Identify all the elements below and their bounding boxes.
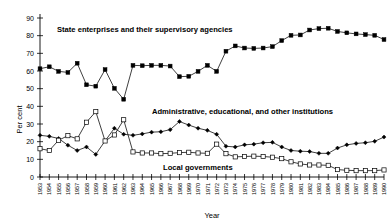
data-point xyxy=(326,163,330,167)
data-point xyxy=(159,152,163,156)
data-point xyxy=(243,46,247,50)
data-point xyxy=(280,157,284,161)
data-point xyxy=(280,145,284,149)
x-tick-label: 1976 xyxy=(251,183,257,195)
data-point xyxy=(168,64,172,68)
x-tick-label: 1982 xyxy=(307,183,313,195)
data-point xyxy=(84,120,88,124)
x-tick-label: 1990 xyxy=(381,183,387,195)
data-point xyxy=(150,130,154,134)
data-point xyxy=(345,31,349,35)
data-point xyxy=(233,44,237,48)
x-tick-label: 1958 xyxy=(84,183,90,195)
y-tick-label: 60 xyxy=(26,68,34,75)
data-point xyxy=(112,133,116,137)
x-tick-label: 1957 xyxy=(74,183,80,195)
data-point xyxy=(289,33,293,37)
x-tick-label: 1978 xyxy=(270,183,276,195)
data-point xyxy=(317,27,321,31)
x-tick-label: 1974 xyxy=(232,183,238,195)
x-tick-label: 1984 xyxy=(325,183,331,195)
data-point xyxy=(205,151,209,155)
data-point xyxy=(196,69,200,73)
data-point xyxy=(373,169,377,173)
x-tick-label: 1973 xyxy=(223,183,229,195)
data-point xyxy=(178,75,182,79)
data-point xyxy=(317,151,321,155)
data-point xyxy=(243,143,247,147)
x-tick-label: 1967 xyxy=(167,183,173,195)
x-tick-label: 1989 xyxy=(372,183,378,195)
data-point xyxy=(66,71,70,75)
x-tick-label: 1972 xyxy=(214,183,220,195)
data-point xyxy=(354,169,358,173)
x-tick-label: 1977 xyxy=(260,183,266,195)
y-tick-label: 50 xyxy=(26,85,34,92)
data-point xyxy=(205,128,209,132)
data-point xyxy=(271,45,275,49)
data-point xyxy=(187,150,191,154)
x-tick-label: 1980 xyxy=(288,183,294,195)
data-point xyxy=(224,152,228,156)
data-point xyxy=(280,39,284,43)
data-point xyxy=(196,126,200,130)
data-point xyxy=(112,86,116,90)
data-point xyxy=(38,147,42,151)
data-point xyxy=(224,49,228,53)
data-point xyxy=(233,145,237,149)
data-point xyxy=(131,63,135,67)
data-point xyxy=(168,151,172,155)
data-point xyxy=(354,32,358,36)
data-point xyxy=(47,148,51,152)
data-point xyxy=(261,154,265,158)
data-point xyxy=(177,151,181,155)
x-tick-label: 1964 xyxy=(139,183,145,195)
data-point xyxy=(373,33,377,37)
data-point xyxy=(75,149,79,153)
data-point xyxy=(382,168,386,172)
data-point xyxy=(242,154,246,158)
data-point xyxy=(94,84,98,88)
data-point xyxy=(261,46,265,50)
data-point xyxy=(308,163,312,167)
data-point xyxy=(122,118,126,122)
data-point xyxy=(289,149,293,153)
data-point xyxy=(47,134,51,138)
series-1 xyxy=(38,26,386,101)
data-point xyxy=(94,110,98,114)
data-point xyxy=(298,149,302,153)
x-tick-label: 1981 xyxy=(298,183,304,195)
y-tick-label: 10 xyxy=(26,156,34,163)
data-point xyxy=(233,155,237,159)
x-tick-label: 1960 xyxy=(102,183,108,195)
data-point xyxy=(289,160,293,164)
x-tick-label: 1986 xyxy=(344,183,350,195)
x-tick-label: 1969 xyxy=(186,183,192,195)
data-point xyxy=(298,33,302,37)
data-point xyxy=(252,154,256,158)
data-point xyxy=(252,46,256,50)
y-tick-label: 90 xyxy=(26,15,34,22)
data-point xyxy=(363,169,367,173)
data-point xyxy=(196,151,200,155)
data-point xyxy=(382,38,386,42)
data-point xyxy=(140,64,144,68)
series-line xyxy=(40,28,384,99)
data-point xyxy=(122,132,126,136)
data-point xyxy=(149,151,153,155)
data-point xyxy=(150,63,154,67)
data-point xyxy=(187,74,191,78)
x-tick-label: 1954 xyxy=(46,183,52,195)
data-point xyxy=(354,141,358,145)
x-tick-label: 1968 xyxy=(177,183,183,195)
y-tick-label: 30 xyxy=(26,121,34,128)
data-point xyxy=(317,163,321,167)
data-point xyxy=(103,68,107,72)
data-point xyxy=(131,133,135,137)
data-point xyxy=(159,63,163,67)
data-point xyxy=(56,138,60,142)
x-tick-label: 1966 xyxy=(158,183,164,195)
x-tick-label: 1975 xyxy=(242,183,248,195)
data-point xyxy=(270,140,274,144)
x-axis-title: Year xyxy=(204,211,220,220)
